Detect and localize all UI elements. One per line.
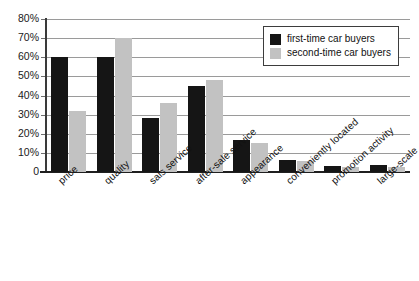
- legend-item: second-time car buyers: [270, 46, 391, 60]
- y-tick-label: 10%: [3, 147, 39, 158]
- y-tick-label: 70%: [3, 32, 39, 43]
- y-tick-label: 20%: [3, 128, 39, 139]
- bar: [115, 38, 132, 172]
- legend-item: first-time car buyers: [270, 32, 391, 46]
- y-tick-label: 0: [3, 166, 39, 177]
- legend-swatch: [270, 48, 281, 59]
- chart-legend: first-time car buyerssecond-time car buy…: [263, 26, 399, 66]
- legend-swatch: [270, 34, 281, 45]
- legend-label: second-time car buyers: [287, 47, 391, 59]
- y-tick-label: 80%: [3, 13, 39, 24]
- y-tick-label: 30%: [3, 109, 39, 120]
- legend-label: first-time car buyers: [287, 33, 375, 45]
- y-tick-label: 40%: [3, 90, 39, 101]
- bar: [188, 86, 205, 172]
- y-tick-label: 50%: [3, 70, 39, 81]
- y-tick-label: 60%: [3, 51, 39, 62]
- bar: [142, 118, 159, 172]
- bar-group: [97, 19, 133, 172]
- bar-group: [142, 19, 178, 172]
- bar-group: [51, 19, 87, 172]
- bar: [51, 57, 68, 172]
- bar: [97, 57, 114, 172]
